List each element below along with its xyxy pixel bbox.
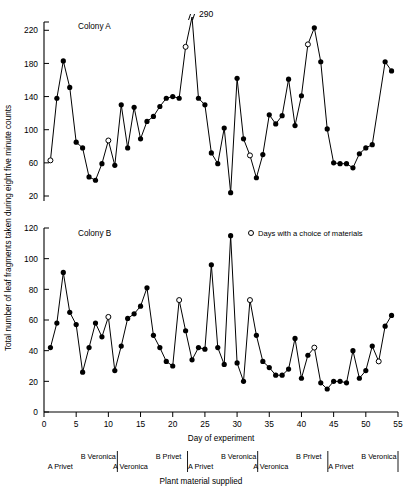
panel-a-open-marker: [183, 44, 188, 49]
panel-a-data-point: [383, 59, 388, 64]
panel-a-data-point: [350, 165, 355, 170]
panel-b-ytick-label: 100: [24, 254, 38, 264]
panel-b-data-point: [305, 353, 310, 358]
panel-a-data-point: [228, 190, 233, 195]
panel-b-data-point: [344, 380, 349, 385]
panel-a-data-point: [234, 76, 239, 81]
panel-a-ytick-label: 20: [29, 191, 39, 201]
panel-a-data-point: [93, 178, 98, 183]
panel-a-data-point: [363, 145, 368, 150]
panel-b-data-point: [241, 379, 246, 384]
panel-b-data-point: [350, 348, 355, 353]
panel-a-data-point: [74, 140, 79, 145]
x-axis-title: Day of experiment: [188, 434, 255, 443]
panel-b-data-point: [370, 343, 375, 348]
material-label-lower: A Privet: [48, 462, 73, 471]
panel-b-ytick-label: 60: [29, 315, 39, 325]
material-label-upper: B Veronica: [361, 452, 397, 461]
x-tick-label: 30: [232, 419, 242, 429]
panel-a-data-point: [61, 58, 66, 63]
panel-b-data-point: [112, 368, 117, 373]
x-tick-label: 0: [42, 419, 47, 429]
panel-b-data-point: [125, 316, 130, 321]
panel-b-title: Colony B: [78, 229, 112, 238]
panel-a-data-point: [112, 163, 117, 168]
panel-a-title: Colony A: [78, 22, 111, 31]
panel-b-data-point: [234, 360, 239, 365]
panel-b-data-point: [337, 379, 342, 384]
material-label-lower: A Veronica: [253, 462, 289, 471]
panel-a-data-point: [196, 96, 201, 101]
panel-b-data-point: [138, 304, 143, 309]
panel-a-data-point: [370, 142, 375, 147]
axis-break-mark: [189, 14, 191, 20]
x-tick-label: 15: [136, 419, 146, 429]
panel-b-data-point: [151, 333, 156, 338]
panel-b-ytick-label: 80: [29, 285, 39, 295]
panel-a-data-point: [331, 160, 336, 165]
material-label-lower: A Privet: [188, 462, 213, 471]
panel-b-data-point: [202, 347, 207, 352]
panel-b-data-point: [209, 262, 214, 267]
legend-open-circle-icon: [249, 231, 254, 236]
panel-a-data-point: [280, 113, 285, 118]
panel-b-data-point: [196, 345, 201, 350]
panel-a-series-line: [50, 17, 391, 193]
panel-a-data-point: [170, 94, 175, 99]
panel-b-data-point: [286, 366, 291, 371]
panel-b-ytick-label: 40: [29, 346, 39, 356]
panel-a-open-marker: [106, 138, 111, 143]
chart-svg: 2060100140180220Colony A2900204060801001…: [0, 0, 407, 491]
panel-b-data-point: [80, 370, 85, 375]
material-label-upper: B Veronica: [221, 452, 257, 461]
panel-b-data-point: [144, 285, 149, 290]
panel-a-data-point: [125, 145, 130, 150]
panel-b-data-point: [318, 380, 323, 385]
panel-a-data-point: [209, 150, 214, 155]
legend-label: Days with a choice of materials: [258, 229, 363, 238]
panel-a-data-point: [215, 161, 220, 166]
panel-a-data-point: [144, 119, 149, 124]
material-label-lower: A Privet: [328, 462, 353, 471]
panel-a-open-marker: [305, 42, 310, 47]
panel-b-data-point: [357, 376, 362, 381]
material-label-upper: B Veronica: [81, 452, 117, 461]
panel-b-data-point: [48, 345, 53, 350]
panel-b-data-point: [292, 336, 297, 341]
panel-a-data-point: [151, 114, 156, 119]
panel-a-data-point: [164, 96, 169, 101]
x-tick-label: 55: [393, 419, 403, 429]
panel-a-data-point: [318, 59, 323, 64]
panel-a-open-marker: [48, 158, 53, 163]
panel-b-data-point: [267, 365, 272, 370]
panel-a-ytick-label: 60: [29, 158, 39, 168]
x-tick-label: 5: [74, 419, 79, 429]
panel-a-data-point: [260, 152, 265, 157]
panel-b-data-point: [299, 376, 304, 381]
panel-a-data-point: [67, 85, 72, 90]
panel-a-data-point: [138, 136, 143, 141]
x-tick-label: 20: [168, 419, 178, 429]
panel-a-ytick-label: 180: [24, 59, 38, 69]
panel-b-data-point: [86, 345, 91, 350]
x-tick-label: 25: [200, 419, 210, 429]
panel-b-data-point: [280, 373, 285, 378]
x-tick-label: 50: [361, 419, 371, 429]
panel-a-data-point: [132, 105, 137, 110]
panel-a-data-point: [389, 68, 394, 73]
panel-a-data-point: [267, 112, 272, 117]
panel-a-data-point: [86, 174, 91, 179]
x-tick-label: 35: [265, 419, 275, 429]
panel-b-data-point: [215, 345, 220, 350]
panel-b-open-marker: [177, 298, 182, 303]
panel-b-data-point: [363, 368, 368, 373]
panel-b-ytick-label: 0: [33, 407, 38, 417]
panel-b-data-point: [164, 359, 169, 364]
panel-a-data-point: [99, 161, 104, 166]
panel-b-data-point: [325, 386, 330, 391]
panel-a-data-point: [344, 161, 349, 166]
panel-b-data-point: [228, 233, 233, 238]
panel-a-data-point: [80, 145, 85, 150]
panel-b-data-point: [273, 373, 278, 378]
x-tick-label: 45: [329, 419, 339, 429]
